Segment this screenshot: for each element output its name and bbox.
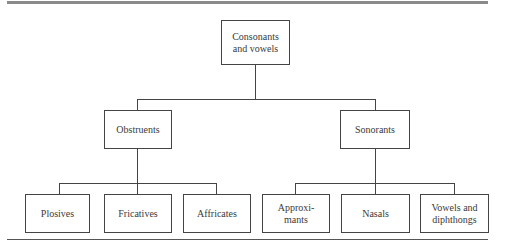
node-obstruents-label: Obstruents	[116, 124, 159, 136]
node-nasals-label: Nasals	[362, 208, 389, 220]
node-obstruents: Obstruents	[104, 110, 172, 149]
connector-to-sonorants	[375, 99, 376, 110]
connector-to-approximants	[295, 183, 296, 194]
connector-to-fricatives	[137, 183, 138, 194]
connector-level1-horizontal	[137, 99, 376, 100]
connector-to-obstruents	[137, 99, 138, 110]
connector-to-vowels	[454, 183, 455, 194]
connector-obstruents-horizontal	[59, 183, 217, 184]
connector-root-down	[255, 64, 256, 99]
node-root-label: Consonants and vowels	[232, 31, 279, 55]
node-fricatives-label: Fricatives	[118, 208, 157, 220]
top-rule	[7, 1, 488, 4]
node-fricatives: Fricatives	[104, 194, 172, 233]
node-vowels-diphthongs: Vowels and diphthongs	[420, 194, 489, 233]
node-plosives-label: Plosives	[41, 208, 74, 220]
connector-to-nasals	[375, 183, 376, 194]
connector-sonorants-down	[375, 148, 376, 183]
bottom-rule	[7, 239, 488, 240]
node-sonorants: Sonorants	[340, 110, 410, 149]
connector-obstruents-down	[137, 148, 138, 183]
connector-to-affricates	[216, 183, 217, 194]
node-nasals: Nasals	[341, 194, 410, 233]
node-vowels-diphthongs-label: Vowels and diphthongs	[431, 202, 477, 226]
node-affricates-label: Affricates	[197, 208, 237, 220]
connector-to-plosives	[59, 183, 60, 194]
node-affricates: Affricates	[183, 194, 251, 233]
node-root: Consonants and vowels	[221, 20, 290, 65]
node-approximants-label: Approxi- mants	[278, 202, 315, 226]
node-plosives: Plosives	[25, 194, 90, 233]
node-approximants: Approxi- mants	[262, 194, 330, 233]
node-sonorants-label: Sonorants	[355, 124, 395, 136]
